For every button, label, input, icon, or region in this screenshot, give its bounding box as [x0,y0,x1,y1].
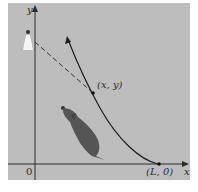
y-axis-label: y [26,4,33,15]
origin-label: 0 [26,166,32,177]
point-current-position [91,91,95,95]
pursuit-curve-diagram: y x 0 (x, y) (L, 0) [0,0,198,192]
label-start-point: (L, 0) [146,166,173,177]
x-axis-label: x [184,166,190,177]
label-current-position: (x, y) [97,79,123,90]
